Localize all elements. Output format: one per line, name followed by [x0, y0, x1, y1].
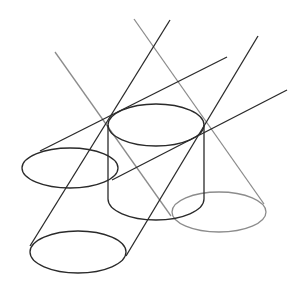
central-cylinder	[108, 104, 204, 220]
cylinder-bottom-arc	[108, 199, 204, 220]
lower-tangent-line	[112, 90, 287, 180]
gray-base-ellipse	[172, 192, 266, 232]
oblique-cylinder-left-edge	[30, 20, 170, 246]
bottom-left-ellipse	[30, 231, 126, 273]
diagram-canvas	[0, 0, 305, 293]
